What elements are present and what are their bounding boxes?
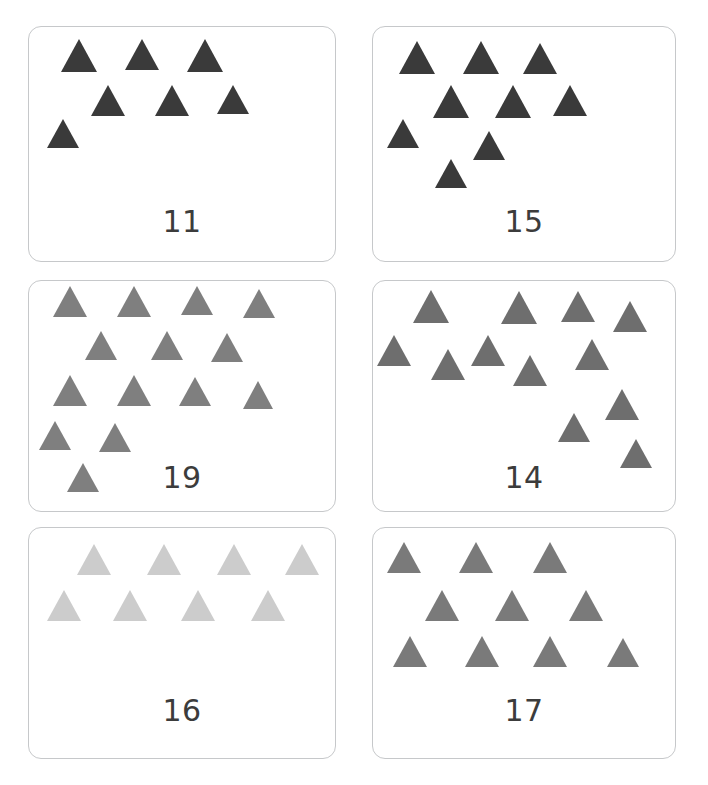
- triangle-icon: [53, 286, 87, 317]
- triangle-icon: [91, 85, 125, 116]
- triangle-icon: [85, 331, 117, 360]
- triangle-icon: [117, 375, 151, 406]
- triangle-icon: [151, 331, 183, 360]
- triangle-icon: [607, 638, 639, 667]
- triangle-icon: [435, 159, 467, 188]
- flashcard[interactable]: 14: [372, 280, 676, 512]
- triangle-icon: [501, 291, 537, 324]
- triangle-icon: [47, 590, 81, 621]
- triangle-icon: [39, 421, 71, 450]
- triangle-icon: [285, 544, 319, 575]
- triangle-icon: [251, 590, 285, 621]
- triangle-icon: [533, 542, 567, 573]
- triangle-icon: [47, 119, 79, 148]
- triangle-icon: [393, 636, 427, 667]
- triangle-icon: [179, 377, 211, 406]
- triangle-icon: [113, 590, 147, 621]
- triangle-icon: [181, 286, 213, 315]
- triangle-icon: [217, 544, 251, 575]
- triangle-icon: [61, 39, 97, 72]
- triangle-icon: [399, 41, 435, 74]
- triangle-icon: [471, 335, 505, 366]
- triangle-icon: [523, 43, 557, 74]
- flashcard[interactable]: 16: [28, 527, 336, 759]
- triangle-icon: [569, 590, 603, 621]
- card-count-label: 17: [373, 696, 675, 726]
- card-count-label: 11: [29, 207, 335, 237]
- triangle-icon: [495, 85, 531, 118]
- triangle-icon: [243, 289, 275, 318]
- triangle-icon: [147, 544, 181, 575]
- flashcard[interactable]: 11: [28, 26, 336, 262]
- flashcard[interactable]: 19: [28, 280, 336, 512]
- triangle-icon: [413, 290, 449, 323]
- triangle-icon: [243, 381, 273, 409]
- triangle-icon: [558, 413, 590, 442]
- triangle-icon: [465, 636, 499, 667]
- triangle-icon: [155, 85, 189, 116]
- triangle-icon: [217, 85, 249, 114]
- triangle-icon: [605, 389, 639, 420]
- triangle-icon: [561, 291, 595, 322]
- triangle-icon: [463, 41, 499, 74]
- triangle-icon: [181, 590, 215, 621]
- card-count-label: 19: [29, 463, 335, 493]
- triangle-icon: [553, 85, 587, 116]
- triangle-icon: [125, 39, 159, 70]
- flashcard[interactable]: 17: [372, 527, 676, 759]
- triangle-icon: [377, 335, 411, 366]
- triangle-icon: [433, 85, 469, 118]
- triangle-icon: [425, 590, 459, 621]
- triangle-icon: [575, 339, 609, 370]
- triangle-icon: [431, 349, 465, 380]
- flashcard[interactable]: 15: [372, 26, 676, 262]
- card-count-label: 14: [373, 463, 675, 493]
- triangle-icon: [387, 542, 421, 573]
- triangle-icon: [459, 542, 493, 573]
- triangle-icon: [513, 355, 547, 386]
- triangle-icon: [117, 286, 151, 317]
- triangle-icon: [473, 131, 505, 160]
- triangle-icon: [187, 39, 223, 72]
- card-count-label: 16: [29, 696, 335, 726]
- card-count-label: 15: [373, 207, 675, 237]
- triangle-icon: [613, 301, 647, 332]
- triangle-icon: [387, 119, 419, 148]
- triangle-icon: [53, 375, 87, 406]
- triangle-icon: [533, 636, 567, 667]
- triangle-icon: [77, 544, 111, 575]
- triangle-icon: [99, 423, 131, 452]
- triangle-icon: [211, 333, 243, 362]
- triangle-icon: [495, 590, 529, 621]
- flashcard-sheet: 111519141617: [0, 0, 708, 785]
